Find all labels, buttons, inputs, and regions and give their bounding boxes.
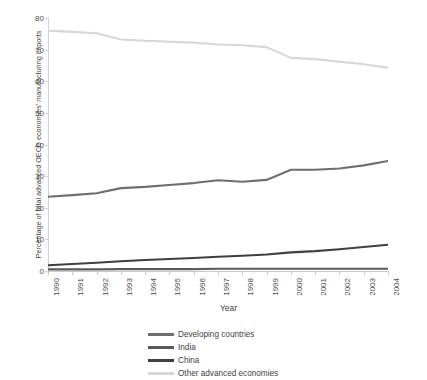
series-line xyxy=(48,31,388,68)
legend-swatch xyxy=(148,333,174,337)
x-tick-label: 1990 xyxy=(52,278,61,296)
series-line xyxy=(48,269,388,270)
x-tick-label: 2004 xyxy=(392,278,401,296)
x-tick-mark xyxy=(364,271,365,275)
y-tick-label: 10 xyxy=(14,235,44,244)
x-tick-mark xyxy=(388,271,389,275)
line-chart: Percentage of total advanced OECD econom… xyxy=(0,0,427,380)
series-line xyxy=(48,245,388,266)
y-tick-label: 70 xyxy=(14,45,44,54)
x-tick-mark xyxy=(291,271,292,275)
x-tick-mark xyxy=(72,271,73,275)
x-tick-label: 1997 xyxy=(222,278,231,296)
x-tick-label: 1992 xyxy=(101,278,110,296)
legend-item: Other advanced economies xyxy=(148,367,408,380)
legend-item: India xyxy=(148,341,408,354)
x-tick-mark xyxy=(242,271,243,275)
x-tick-label: 1991 xyxy=(76,278,85,296)
x-tick-mark xyxy=(267,271,268,275)
y-tick-label: 30 xyxy=(14,172,44,181)
legend-label: India xyxy=(178,343,196,352)
x-tick-label: 1998 xyxy=(246,278,255,296)
x-tick-mark xyxy=(339,271,340,275)
x-tick-label: 1999 xyxy=(271,278,280,296)
x-axis-title: Year xyxy=(0,303,427,313)
legend-label: Other advanced economies xyxy=(178,369,278,378)
chart-legend: Developing countriesIndiaChinaOther adva… xyxy=(148,328,408,380)
y-tick-label: 0 xyxy=(14,267,44,276)
x-tick-mark xyxy=(145,271,146,275)
y-axis-tick-labels: 01020304050607080 xyxy=(12,0,44,380)
x-tick-mark xyxy=(169,271,170,275)
legend-label: Developing countries xyxy=(178,330,254,339)
legend-swatch xyxy=(148,359,174,363)
legend-item: China xyxy=(148,354,408,367)
x-tick-label: 1993 xyxy=(125,278,134,296)
x-tick-label: 1994 xyxy=(149,278,158,296)
x-tick-mark xyxy=(48,271,49,275)
legend-item: Developing countries xyxy=(148,328,408,341)
y-tick-label: 40 xyxy=(14,140,44,149)
x-tick-mark xyxy=(121,271,122,275)
x-tick-label: 2000 xyxy=(295,278,304,296)
y-tick-label: 50 xyxy=(14,108,44,117)
x-tick-mark xyxy=(194,271,195,275)
x-tick-label: 1995 xyxy=(173,278,182,296)
y-tick-label: 20 xyxy=(14,203,44,212)
y-tick-label: 80 xyxy=(14,14,44,23)
legend-swatch xyxy=(148,372,174,376)
plot-area xyxy=(48,18,388,271)
x-tick-label: 2003 xyxy=(368,278,377,296)
x-tick-label: 2002 xyxy=(343,278,352,296)
legend-label: China xyxy=(178,356,199,365)
legend-swatch xyxy=(148,346,174,350)
y-tick-label: 60 xyxy=(14,77,44,86)
x-tick-mark xyxy=(97,271,98,275)
x-tick-label: 2001 xyxy=(319,278,328,296)
series-lines xyxy=(48,18,388,271)
series-line xyxy=(48,161,388,197)
x-tick-label: 1996 xyxy=(198,278,207,296)
x-tick-mark xyxy=(218,271,219,275)
x-tick-mark xyxy=(315,271,316,275)
